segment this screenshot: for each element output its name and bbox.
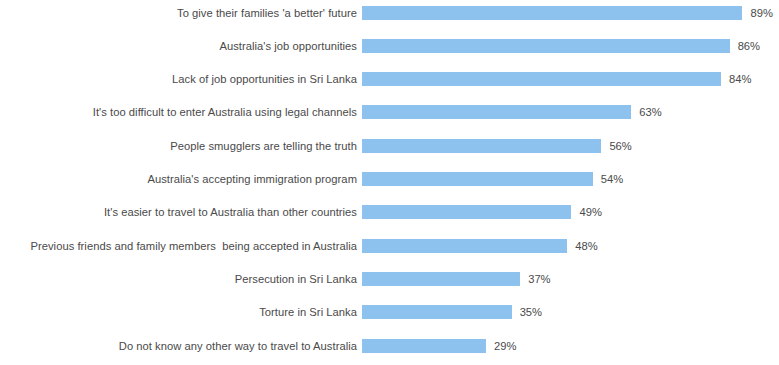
bar-row: It's too difficult to enter Australia us… [0,101,779,123]
category-label: People smugglers are telling the truth [0,135,357,157]
bar-track [362,205,571,219]
category-label: Torture in Sri Lanka [0,301,357,323]
category-label: Previous friends and family members bein… [0,235,357,257]
bar [362,339,486,353]
bar-row: Australia's accepting immigration progra… [0,168,779,190]
bar-value-label: 56% [609,135,631,157]
bar [362,6,742,20]
category-label: Australia's accepting immigration progra… [0,168,357,190]
category-label: To give their families 'a better' future [0,2,357,24]
bar-value-label: 84% [729,68,751,90]
bar [362,72,721,86]
bar-track [362,39,730,53]
bar [362,105,631,119]
bar-value-label: 29% [494,335,516,357]
bar-row: To give their families 'a better' future… [0,2,779,24]
bar-track [362,305,512,319]
bar-track [362,239,567,253]
bar [362,172,593,186]
bar [362,205,571,219]
bar-value-label: 63% [639,101,661,123]
bar [362,305,512,319]
bar-row: Lack of job opportunities in Sri Lanka84… [0,68,779,90]
bar-row: Persecution in Sri Lanka37% [0,268,779,290]
bar-row: Torture in Sri Lanka35% [0,301,779,323]
bar-value-label: 54% [601,168,623,190]
category-label: Persecution in Sri Lanka [0,268,357,290]
bar-track [362,139,601,153]
bar-value-label: 49% [579,201,601,223]
bar [362,272,520,286]
bar-track [362,272,520,286]
bar-row: Australia's job opportunities86% [0,35,779,57]
bar-row: People smugglers are telling the truth56… [0,135,779,157]
horizontal-bar-chart: To give their families 'a better' future… [0,0,779,365]
category-label: Lack of job opportunities in Sri Lanka [0,68,357,90]
bar-track [362,72,721,86]
bar-row: It's easier to travel to Australia than … [0,201,779,223]
bar-value-label: 86% [738,35,760,57]
bar [362,39,730,53]
bar [362,139,601,153]
bar-track [362,6,742,20]
bar-value-label: 37% [528,268,550,290]
bar-value-label: 89% [750,2,772,24]
bar-value-label: 35% [520,301,542,323]
bar-row: Previous friends and family members bein… [0,235,779,257]
bar-track [362,339,486,353]
bar-track [362,105,631,119]
category-label: It's too difficult to enter Australia us… [0,101,357,123]
category-label: It's easier to travel to Australia than … [0,201,357,223]
bar-value-label: 48% [575,235,597,257]
category-label: Do not know any other way to travel to A… [0,335,357,357]
category-label: Australia's job opportunities [0,35,357,57]
bar [362,239,567,253]
bar-row: Do not know any other way to travel to A… [0,335,779,357]
bar-track [362,172,593,186]
